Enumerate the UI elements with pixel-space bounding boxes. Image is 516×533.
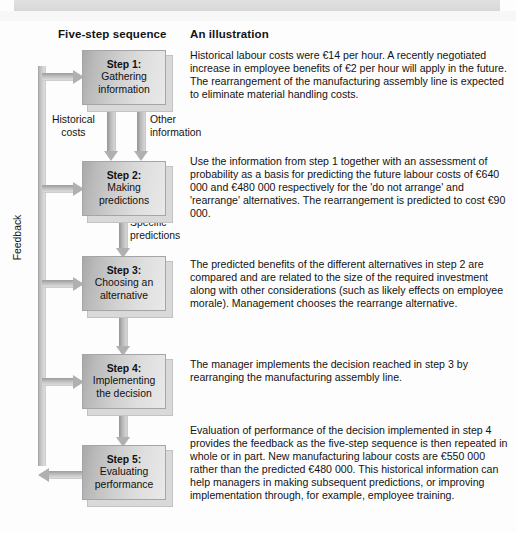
step-box-step-4: Step 4: Implementing the decision — [82, 354, 166, 409]
step-box-step-2: Step 2: Making predictions — [82, 161, 166, 216]
flow-arrow-historical-costs — [104, 105, 119, 161]
scan-artifact-band-secondary — [0, 11, 516, 21]
illustration-text-step-4: The manager implements the decision reac… — [190, 358, 512, 384]
step-3-title: Step 3: — [107, 265, 142, 277]
caption-historical-costs-line1: Historical — [52, 114, 95, 125]
feedback-arrow-to-step-2 — [42, 184, 84, 193]
feedback-arrow-from-step-5 — [38, 470, 84, 479]
illustration-text-step-1: Historical labour costs were €14 per hou… — [190, 49, 512, 101]
step-5-line2: performance — [95, 479, 153, 491]
step-box-step-1: Step 1: Gathering information — [82, 50, 166, 105]
flow-arrow-other-information — [134, 105, 149, 161]
feedback-loop-rail — [38, 66, 46, 466]
heading-five-step-sequence: Five-step sequence — [58, 28, 167, 40]
step-4-line2: the decision — [96, 388, 151, 400]
feedback-label: Feedback — [12, 208, 23, 268]
step-3-line1: Choosing an — [95, 277, 153, 289]
illustration-text-step-5: Evaluation of performance of the decisio… — [190, 424, 512, 503]
illustration-text-step-2: Use the information from step 1 together… — [190, 155, 512, 220]
caption-specific-predictions-line2: predictions — [130, 230, 180, 241]
heading-an-illustration: An illustration — [190, 28, 269, 40]
caption-historical-costs-line2: costs — [61, 127, 85, 138]
step-5-line1: Evaluating — [100, 466, 149, 478]
diagram-canvas: Five-step sequence An illustration Feedb… — [0, 0, 516, 533]
step-box-step-5: Step 5: Evaluating performance — [82, 445, 166, 500]
scan-artifact-band — [14, 0, 500, 11]
caption-other-information: Other information — [150, 114, 201, 139]
step-4-title: Step 4: — [107, 363, 142, 375]
step-3-line2: alternative — [100, 290, 148, 302]
step-2-line2: predictions — [99, 195, 149, 207]
step-5-title: Step 5: — [107, 454, 142, 466]
caption-historical-costs: Historical costs — [52, 114, 95, 139]
illustration-text-step-3: The predicted benefits of the different … — [190, 258, 512, 310]
step-1-line2: information — [98, 84, 149, 96]
step-1-title: Step 1: — [107, 59, 142, 71]
step-1-line1: Gathering — [101, 71, 147, 83]
step-2-title: Step 2: — [107, 170, 142, 182]
step-4-line1: Implementing — [93, 375, 155, 387]
step-2-line1: Making — [107, 182, 141, 194]
caption-other-information-line1: Other — [150, 114, 176, 125]
feedback-arrow-to-step-1 — [42, 72, 84, 81]
feedback-arrow-to-step-4 — [42, 377, 84, 386]
feedback-arrow-to-step-3 — [42, 279, 84, 288]
caption-other-information-line2: information — [150, 127, 201, 138]
step-box-step-3: Step 3: Choosing an alternative — [82, 256, 166, 311]
